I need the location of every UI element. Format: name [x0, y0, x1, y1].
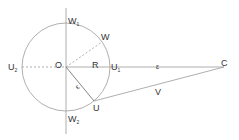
label-o: O	[55, 60, 62, 70]
label-w2: W2	[68, 114, 80, 125]
label-v: V	[155, 87, 161, 97]
label-u1: U1	[111, 62, 121, 73]
label-w1: W1	[68, 16, 80, 27]
geometry-diagram: W1 W U2 O R U1 ε C ε U V W2	[0, 0, 239, 140]
label-u2: U2	[8, 62, 18, 73]
label-w: W	[101, 32, 110, 42]
label-epsilon-oc: ε	[156, 63, 159, 70]
label-r: R	[92, 60, 99, 70]
label-c: C	[221, 58, 228, 68]
line-ou	[66, 67, 94, 101]
label-u: U	[93, 103, 100, 113]
